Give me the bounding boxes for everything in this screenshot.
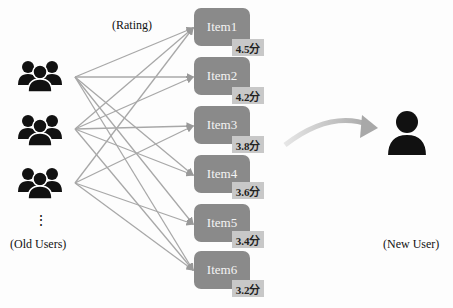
old-users-label: (Old Users) (10, 237, 66, 252)
rating-label: (Rating) (112, 18, 152, 33)
new-user-label: (New User) (383, 237, 439, 252)
users-group-icon (18, 167, 62, 199)
score-badge: 3.6分 (232, 182, 264, 199)
score-badge: 3.4分 (232, 231, 264, 248)
score-badge: 4.5分 (232, 39, 264, 56)
score-badge: 4.2分 (232, 87, 264, 104)
recommendation-diagram: (Rating) ⋮ (Old Users) Item1 4.5分 Item2 … (0, 0, 453, 308)
score-badge: 3.2分 (232, 280, 264, 297)
users-group-icon (18, 60, 62, 92)
ellipsis: ⋮ (34, 212, 48, 229)
curved-arrow-icon (285, 121, 370, 146)
user-icon (387, 110, 427, 156)
users-group-icon (18, 114, 62, 146)
score-badge: 3.8分 (232, 136, 264, 153)
